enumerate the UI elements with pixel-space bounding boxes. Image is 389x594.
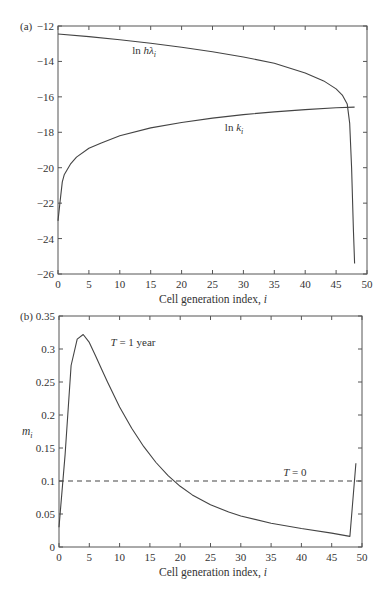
y-tick-label: 0.15 [36, 442, 56, 454]
x-tick-label: 45 [326, 551, 338, 563]
series-label: ln ki [225, 121, 243, 136]
y-tick-label: 0.25 [36, 376, 56, 388]
x-tick-label: 50 [357, 551, 369, 563]
panel-label: (b) [20, 310, 33, 323]
x-tick-label: 0 [55, 278, 61, 290]
y-tick-label: −14 [37, 55, 55, 67]
plot-frame [58, 26, 367, 274]
x-axis-title: Cell generation index, i [159, 293, 267, 306]
x-axis-title: Cell generation index, i [159, 566, 267, 579]
x-tick-label: 25 [207, 278, 219, 290]
y-tick-label: −20 [37, 162, 55, 174]
series-line [58, 34, 355, 263]
x-tick-label: 0 [56, 551, 62, 563]
x-tick-label: 15 [145, 278, 157, 290]
x-tick-label: 5 [87, 551, 93, 563]
y-tick-label: −26 [37, 268, 55, 280]
x-tick-label: 30 [235, 551, 247, 563]
x-tick-label: 45 [331, 278, 343, 290]
y-tick-label: −18 [37, 126, 55, 138]
plot-frame [59, 316, 362, 547]
x-tick-label: 30 [238, 278, 250, 290]
series-label: T = 0 [283, 466, 307, 478]
x-tick-label: 10 [114, 551, 126, 563]
y-tick-label: 0.3 [41, 343, 55, 355]
x-tick-label: 10 [114, 278, 126, 290]
y-tick-label: −12 [37, 20, 54, 32]
series-label: T = 1 year [111, 336, 156, 348]
y-tick-label: −16 [37, 91, 55, 103]
panel-b-chart: 0510152025303540455000.050.10.150.20.250… [20, 310, 368, 579]
x-tick-label: 25 [205, 551, 217, 563]
y-tick-label: 0.05 [36, 508, 56, 520]
x-tick-label: 5 [86, 278, 92, 290]
y-tick-label: 0.2 [41, 409, 55, 421]
y-axis-title: mi [22, 425, 33, 440]
series-label: ln hλi [132, 44, 156, 59]
x-tick-label: 40 [300, 278, 312, 290]
x-tick-label: 50 [362, 278, 374, 290]
y-tick-label: 0 [50, 541, 56, 553]
x-tick-label: 20 [176, 278, 188, 290]
x-tick-label: 20 [175, 551, 187, 563]
x-tick-label: 15 [144, 551, 156, 563]
y-tick-label: 0.1 [41, 475, 55, 487]
series-line [58, 107, 355, 221]
x-tick-label: 35 [266, 551, 278, 563]
y-tick-label: −22 [37, 197, 54, 209]
panel-a-chart: 05101520253035404550−12−14−16−18−20−22−2… [20, 20, 373, 306]
x-tick-label: 35 [269, 278, 281, 290]
figure: 05101520253035404550−12−14−16−18−20−22−2… [0, 0, 389, 594]
panel-label: (a) [20, 20, 33, 33]
y-tick-label: −24 [37, 233, 55, 245]
y-tick-label: 0.35 [36, 310, 56, 322]
x-tick-label: 40 [296, 551, 308, 563]
series-line [59, 335, 356, 537]
